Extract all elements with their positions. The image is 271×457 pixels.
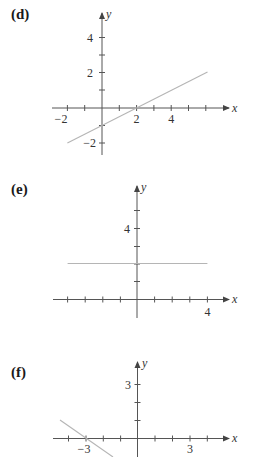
tick-label-x-2: 2 bbox=[134, 112, 140, 126]
charts-canvas: −2 2 4 4 2 −2 x y 4 bbox=[0, 0, 271, 457]
tick-label-x-neg3: −3 bbox=[78, 442, 91, 456]
axis-label-x: x bbox=[231, 431, 238, 445]
tick-label-x-neg2: −2 bbox=[55, 112, 68, 126]
chart-e: 4 4 x y bbox=[53, 180, 238, 319]
axis-label-y: y bbox=[141, 356, 148, 370]
tick-label-y-3: 3 bbox=[125, 378, 131, 392]
axis-label-y: y bbox=[105, 7, 112, 21]
chart-d: −2 2 4 4 2 −2 x y bbox=[52, 7, 238, 155]
tick-label-x-4: 4 bbox=[168, 112, 174, 126]
tick-label-y-2: 2 bbox=[87, 66, 93, 80]
tick-label-y-4: 4 bbox=[87, 31, 93, 45]
tick-label-y-4: 4 bbox=[124, 222, 130, 236]
axis-label-x: x bbox=[231, 101, 238, 115]
tick-label-x-4: 4 bbox=[204, 305, 210, 319]
axis-label-x: x bbox=[231, 292, 238, 306]
chart-f: 3 −3 3 x y bbox=[53, 356, 238, 457]
axis-label-y: y bbox=[140, 180, 147, 194]
tick-label-y-neg2: −2 bbox=[83, 136, 96, 150]
tick-label-x-3: 3 bbox=[187, 442, 193, 456]
